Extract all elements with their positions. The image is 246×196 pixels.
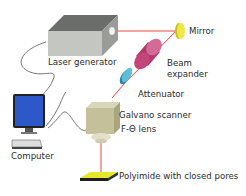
galvano-scanner-icon: [86, 102, 120, 144]
label-laser-generator: Laser generator: [48, 58, 117, 68]
label-beam-expander-line1: Beam: [167, 59, 192, 69]
computer-icon: [12, 94, 45, 149]
beam-expander-icon: [131, 36, 165, 73]
label-galvano-scanner: Galvano scanner: [119, 111, 191, 121]
label-sample: Polyimide with closed pores: [119, 172, 238, 182]
cable-scanner-to-computer: [48, 112, 86, 131]
mirror-icon: [175, 23, 185, 39]
laser-generator-icon: [48, 15, 118, 56]
cable-computer-to-scanner: [46, 92, 66, 126]
label-beam-expander-line2: expander: [167, 70, 208, 80]
polyimide-sample-icon: [80, 172, 118, 181]
label-f-theta-lens: F-Θ lens: [121, 125, 156, 135]
label-computer: Computer: [11, 152, 54, 162]
label-mirror: Mirror: [189, 27, 214, 37]
label-attenuator: Attenuator: [138, 90, 184, 100]
